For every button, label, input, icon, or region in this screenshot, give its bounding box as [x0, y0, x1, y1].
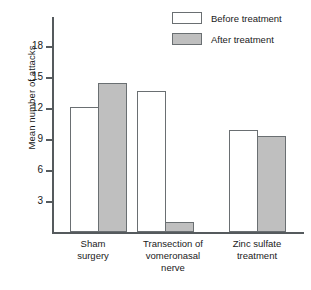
group-label-line2: treatment: [215, 250, 299, 262]
legend-swatch-after-icon: [172, 33, 202, 45]
legend-label-after: After treatment: [211, 34, 274, 45]
legend-item-after: After treatment: [172, 33, 282, 45]
x-axis-group-label-sham: Sham surgery: [56, 238, 130, 262]
legend: Before treatment After treatment: [172, 12, 282, 54]
bar-chart: Mean number of attacks 18 15 12 9 6 3 Sh…: [0, 0, 311, 290]
legend-swatch-before-icon: [172, 12, 202, 24]
y-axis-tick-label-12: 12: [3, 103, 43, 113]
bar-transection-after: [165, 222, 194, 232]
bar-sham-before: [70, 107, 99, 232]
bar-transection-before: [137, 91, 166, 232]
y-axis-tick-label-3: 3: [3, 196, 43, 206]
x-axis-group-label-zinc: Zinc sulfate treatment: [215, 238, 299, 262]
group-label-line2: vomeronasal: [128, 250, 218, 262]
y-axis-tick-label-6: 6: [3, 165, 43, 175]
y-axis-tick-label-15: 15: [3, 72, 43, 82]
bar-zinc-after: [257, 136, 286, 232]
group-label-line3: nerve: [128, 262, 218, 274]
group-label-line1: Sham: [56, 238, 130, 250]
group-label-line2: surgery: [56, 250, 130, 262]
x-axis-line: [52, 232, 304, 234]
group-label-line1: Transection of: [128, 238, 218, 250]
bar-sham-after: [98, 83, 127, 232]
x-axis-group-label-transection: Transection of vomeronasal nerve: [128, 238, 218, 274]
legend-item-before: Before treatment: [172, 12, 282, 24]
y-axis-tick-label-9: 9: [3, 134, 43, 144]
group-label-line1: Zinc sulfate: [215, 238, 299, 250]
legend-label-before: Before treatment: [211, 13, 282, 24]
y-axis-tick-label-18: 18: [3, 41, 43, 51]
bar-zinc-before: [229, 130, 258, 232]
